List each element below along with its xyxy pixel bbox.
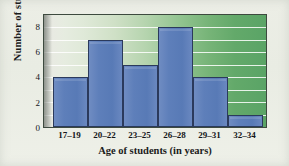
bar (88, 40, 123, 127)
y-tick-label: 6 (28, 47, 40, 57)
histogram-figure: Number of students 0 2 4 6 8 (0, 0, 289, 166)
bar-series (44, 15, 266, 127)
plot-area (43, 14, 267, 128)
x-tick-label: 23–25 (128, 130, 151, 140)
x-tick-label: 26–28 (163, 130, 186, 140)
bar-highlight (90, 42, 121, 44)
y-axis-tick-labels: 0 2 4 6 8 (28, 14, 40, 128)
bar (53, 77, 88, 127)
bar-highlight (55, 79, 86, 81)
bar-highlight (230, 117, 261, 119)
y-tick-label: 0 (28, 123, 40, 133)
y-axis-title: Number of students (12, 0, 28, 76)
bar-highlight (125, 67, 156, 69)
y-tick-label: 4 (28, 72, 40, 82)
bar (228, 115, 263, 127)
bar (158, 27, 193, 127)
x-tick-label: 20–22 (93, 130, 116, 140)
y-tick-label: 8 (28, 22, 40, 32)
x-tick-label: 17–19 (58, 130, 81, 140)
bar-highlight (195, 79, 226, 81)
x-tick-label: 32–34 (233, 130, 256, 140)
x-tick-label: 29–31 (198, 130, 221, 140)
x-axis-tick-labels: 17–19 20–22 23–25 26–28 29–31 32–34 (43, 130, 267, 144)
x-axis-title: Age of students (in years) (43, 145, 267, 156)
bar (123, 65, 158, 127)
bar-highlight (160, 29, 191, 31)
bar (193, 77, 228, 127)
y-tick-label: 2 (28, 98, 40, 108)
